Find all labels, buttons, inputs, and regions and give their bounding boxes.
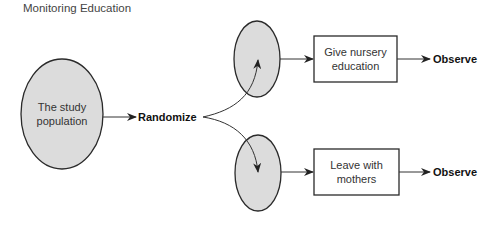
top-box-line2: education bbox=[314, 59, 397, 73]
observe-top-label: Observe bbox=[433, 52, 493, 66]
population-label: The study population bbox=[22, 100, 102, 128]
observe-bottom-label: Observe bbox=[433, 165, 493, 179]
top-box-label: Give nursery education bbox=[314, 45, 397, 73]
bottom-box-line1: Leave with bbox=[314, 158, 399, 172]
group-bottom-ellipse bbox=[235, 135, 281, 211]
group-top-ellipse bbox=[234, 21, 280, 97]
bottom-box-line2: mothers bbox=[314, 172, 399, 186]
randomize-label: Randomize bbox=[138, 110, 202, 124]
population-label-line1: The study bbox=[22, 100, 102, 114]
population-label-line2: population bbox=[22, 114, 102, 128]
bottom-box-label: Leave with mothers bbox=[314, 158, 399, 186]
top-box-line1: Give nursery bbox=[314, 45, 397, 59]
